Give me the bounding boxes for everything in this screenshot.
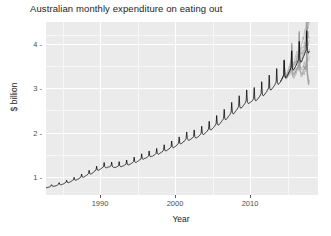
chart-title: Australian monthly expenditure on eating… xyxy=(30,3,222,14)
y-tick-label-3: 3 - xyxy=(20,84,42,93)
x-tick-label-2000: 2000 xyxy=(155,199,195,208)
chart-figure: Australian monthly expenditure on eating… xyxy=(0,0,331,236)
y-tick-label-4: 4 - xyxy=(20,40,42,49)
x-axis-title: Year xyxy=(136,214,226,224)
x-tick-mark-1990 xyxy=(100,195,101,198)
observed-series-line xyxy=(46,31,309,188)
x-tick-label-1990: 1990 xyxy=(80,199,120,208)
x-tick-mark-2000 xyxy=(175,195,176,198)
y-tick-label-1: 1 - xyxy=(20,173,42,182)
x-tick-label-2010: 2010 xyxy=(230,199,270,208)
y-axis-title: $ billion xyxy=(9,67,19,127)
x-tick-mark-2010 xyxy=(250,195,251,198)
plot-panel xyxy=(46,22,318,195)
series-layer xyxy=(46,22,318,195)
y-tick-label-2: 2 - xyxy=(20,129,42,138)
